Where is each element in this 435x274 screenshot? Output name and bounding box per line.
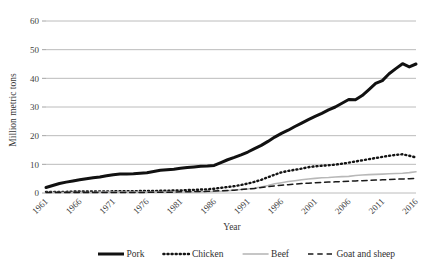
x-tick-label: 2011 — [367, 196, 387, 216]
x-axis-tick-labels: 1961196619711976198119861991199620012006… — [30, 196, 420, 216]
legend-label-chicken: Chicken — [192, 249, 224, 259]
x-tick-label: 2006 — [333, 196, 353, 216]
x-tick-label: 1961 — [30, 196, 50, 216]
chart-canvas: 0102030405060 19611966197119761981198619… — [0, 0, 435, 274]
legend-label-pork: Pork — [127, 249, 145, 259]
x-tick-label: 1976 — [131, 196, 151, 216]
y-tick-label: 40 — [30, 74, 40, 84]
y-tick-label: 50 — [30, 45, 40, 55]
series-line-pork — [46, 64, 416, 188]
y-axis-tick-labels: 0102030405060 — [30, 16, 40, 198]
y-tick-label: 60 — [30, 16, 40, 26]
series-lines — [46, 64, 416, 193]
series-line-beef — [46, 172, 416, 193]
legend-label-beef: Beef — [271, 249, 290, 259]
y-tick-label: 30 — [30, 102, 40, 112]
x-tick-label: 2001 — [299, 196, 319, 216]
x-tick-label: 2016 — [400, 196, 420, 216]
x-axis-title: Year — [223, 222, 241, 232]
x-tick-label: 1966 — [64, 196, 84, 216]
x-tick-label: 1971 — [97, 196, 117, 216]
y-tick-label: 10 — [30, 160, 40, 170]
y-tick-label: 20 — [30, 131, 40, 141]
x-tick-label: 1986 — [198, 196, 218, 216]
x-tick-label: 1996 — [266, 196, 286, 216]
legend-label-goat-and-sheep: Goat and sheep — [337, 249, 396, 259]
y-axis-title: Million metric tons — [8, 73, 18, 147]
chart-legend: PorkChickenBeefGoat and sheep — [98, 249, 395, 259]
x-tick-label: 1991 — [232, 196, 252, 216]
x-tick-label: 1981 — [165, 196, 185, 216]
gridlines — [42, 21, 416, 193]
line-chart: 0102030405060 19611966197119761981198619… — [0, 0, 435, 274]
y-tick-label: 0 — [35, 188, 40, 198]
